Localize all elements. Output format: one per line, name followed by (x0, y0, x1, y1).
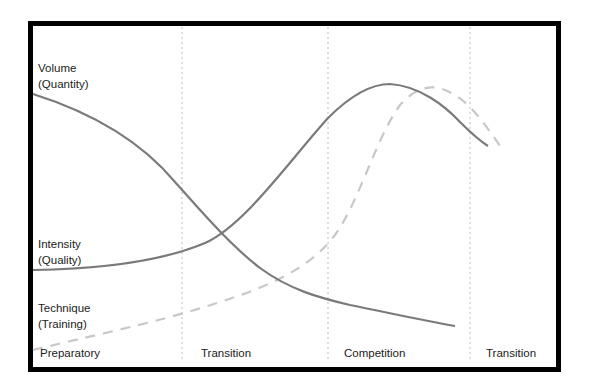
phase-label-transition-1: Transition (201, 347, 251, 359)
intensity-label-line1: Intensity (38, 236, 81, 252)
technique-label-line2: (Training) (38, 316, 90, 332)
volume-curve (33, 94, 455, 326)
technique-label-line1: Technique (38, 300, 90, 316)
intensity-curve (33, 84, 488, 270)
phase-label-transition-2: Transition (486, 347, 536, 359)
phase-label-preparatory: Preparatory (40, 347, 100, 359)
volume-label-line1: Volume (38, 60, 89, 76)
phase-label-competition: Competition (344, 347, 405, 359)
technique-label: Technique (Training) (38, 300, 90, 332)
intensity-label-line2: (Quality) (38, 252, 81, 268)
intensity-label: Intensity (Quality) (38, 236, 81, 268)
volume-label: Volume (Quantity) (38, 60, 89, 92)
technique-curve (33, 87, 503, 350)
volume-label-line2: (Quantity) (38, 76, 89, 92)
